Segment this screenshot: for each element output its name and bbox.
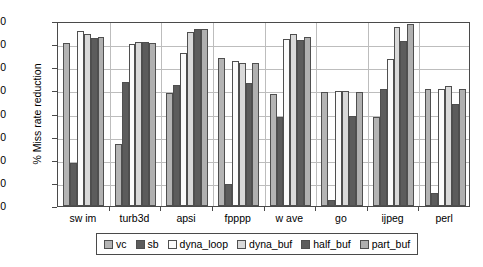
bar-dyna_buf-apsi	[187, 32, 194, 206]
x-tick-mark	[367, 207, 368, 211]
legend-swatch-icon	[360, 240, 369, 249]
group-separator	[213, 23, 214, 206]
bar-dyna_buf-swim	[84, 34, 91, 206]
legend-label: sb	[148, 239, 159, 250]
legend-item-half_buf[interactable]: half_buf	[301, 239, 350, 250]
legend-label: dyna_loop	[180, 239, 228, 250]
bar-part_buf-fpppp	[252, 63, 259, 206]
bar-half_buf-wave	[297, 40, 304, 206]
x-tick-mark	[109, 207, 110, 211]
bar-sb-perl	[431, 193, 438, 206]
legend-label: half_buf	[313, 239, 350, 250]
legend-swatch-icon	[237, 240, 246, 249]
legend-item-dyna_buf[interactable]: dyna_buf	[237, 239, 292, 250]
bar-vc-wave	[270, 94, 277, 206]
bar-vc-swim	[63, 43, 70, 206]
bar-sb-turb3d	[122, 82, 129, 206]
x-axis-label: perl	[418, 212, 470, 224]
y-axis-title: % Miss rate reduction	[31, 14, 43, 214]
bar-part_buf-perl	[459, 89, 466, 206]
x-axis-label: ijpeg	[367, 212, 419, 224]
chart-legend: vcsbdyna_loopdyna_bufhalf_bufpart_buf	[96, 233, 418, 255]
legend-swatch-icon	[301, 240, 310, 249]
legend-swatch-icon	[104, 240, 113, 249]
legend-item-sb[interactable]: sb	[136, 239, 159, 250]
bar-half_buf-fpppp	[246, 83, 253, 206]
y-tick-label: 40	[0, 109, 6, 120]
bar-sb-ijpeg	[380, 89, 387, 206]
bar-sb-fpppp	[225, 184, 232, 206]
bar-chart: % Miss rate reduction 80706050403020100 …	[0, 0, 483, 267]
y-tick-label: 30	[0, 132, 6, 143]
legend-item-part_buf[interactable]: part_buf	[360, 239, 411, 250]
x-axis-label: go	[315, 212, 367, 224]
legend-label: part_buf	[372, 239, 411, 250]
legend-item-dyna_loop[interactable]: dyna_loop	[168, 239, 228, 250]
y-tick-label: 0	[0, 201, 6, 212]
bar-part_buf-ijpeg	[407, 24, 414, 206]
y-tick-label: 60	[0, 62, 6, 73]
bar-part_buf-turb3d	[149, 43, 156, 206]
group-separator	[368, 23, 369, 206]
x-axis-label: sw im	[57, 212, 109, 224]
x-axis-label: w ave	[264, 212, 316, 224]
bar-dyna_buf-wave	[290, 34, 297, 206]
bar-part_buf-wave	[304, 37, 311, 206]
bar-sb-go	[328, 200, 335, 206]
bar-half_buf-ijpeg	[400, 41, 407, 206]
group-separator	[316, 23, 317, 206]
x-tick-mark	[160, 207, 161, 211]
bar-half_buf-go	[349, 116, 356, 206]
y-tick-label: 50	[0, 85, 6, 96]
bar-dyna_buf-go	[342, 91, 349, 206]
bar-dyna_buf-fpppp	[239, 63, 246, 206]
y-tick-label: 70	[0, 39, 6, 50]
x-axis-label: fpppp	[212, 212, 264, 224]
y-tick-label: 10	[0, 178, 6, 189]
x-axis-label: turb3d	[109, 212, 161, 224]
legend-label: dyna_buf	[249, 239, 292, 250]
bar-dyna_loop-perl	[438, 89, 445, 206]
bar-vc-perl	[425, 89, 432, 206]
bar-part_buf-swim	[98, 37, 105, 206]
bar-dyna_loop-fpppp	[232, 61, 239, 206]
bar-part_buf-go	[356, 92, 363, 206]
bar-sb-wave	[277, 117, 284, 206]
bar-vc-ijpeg	[373, 117, 380, 206]
legend-swatch-icon	[136, 240, 145, 249]
bar-part_buf-apsi	[201, 29, 208, 206]
group-separator	[110, 23, 111, 206]
group-separator	[419, 23, 420, 206]
bar-vc-turb3d	[115, 144, 122, 206]
bar-dyna_buf-turb3d	[135, 42, 142, 206]
bar-sb-swim	[70, 163, 77, 206]
bar-half_buf-swim	[91, 38, 98, 206]
x-tick-mark	[315, 207, 316, 211]
legend-swatch-icon	[168, 240, 177, 249]
bar-sb-apsi	[173, 85, 180, 206]
x-axis-label: apsi	[160, 212, 212, 224]
bar-vc-fpppp	[218, 58, 225, 206]
bar-dyna_loop-swim	[77, 31, 84, 206]
group-separator	[265, 23, 266, 206]
y-tick-mark	[52, 207, 57, 208]
legend-item-vc[interactable]: vc	[104, 239, 127, 250]
plot-area	[57, 22, 470, 207]
bar-dyna_loop-wave	[283, 39, 290, 206]
legend-label: vc	[116, 239, 127, 250]
y-tick-label: 20	[0, 155, 6, 166]
bar-dyna_buf-perl	[445, 86, 452, 206]
x-tick-mark	[212, 207, 213, 211]
bar-half_buf-apsi	[194, 29, 201, 206]
x-tick-mark	[264, 207, 265, 211]
group-separator	[161, 23, 162, 206]
x-tick-mark	[418, 207, 419, 211]
bar-half_buf-perl	[452, 104, 459, 206]
bar-dyna_loop-turb3d	[129, 44, 136, 206]
bar-dyna_loop-ijpeg	[387, 59, 394, 206]
bar-vc-go	[321, 92, 328, 206]
bar-dyna_loop-apsi	[180, 53, 187, 206]
bar-vc-apsi	[166, 93, 173, 206]
bar-half_buf-turb3d	[142, 42, 149, 206]
bar-dyna_buf-ijpeg	[394, 27, 401, 206]
